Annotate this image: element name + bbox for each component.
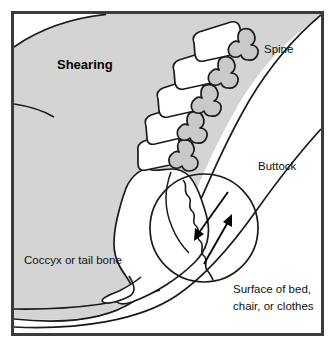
label-coccyx: Coccyx or tail bone <box>24 254 122 266</box>
label-surface-line-2: chair, or clothes <box>233 300 314 312</box>
label-surface-line-1: Surface of bed, <box>233 283 311 295</box>
label-shearing: Shearing <box>57 57 113 72</box>
anatomy-illustration: Shearing Spine Buttock Coccyx or tail bo… <box>0 0 336 347</box>
label-buttock: Buttock <box>258 160 297 172</box>
label-spine: Spine <box>264 43 293 55</box>
shearing-diagram-figure: Shearing Spine Buttock Coccyx or tail bo… <box>0 0 336 347</box>
